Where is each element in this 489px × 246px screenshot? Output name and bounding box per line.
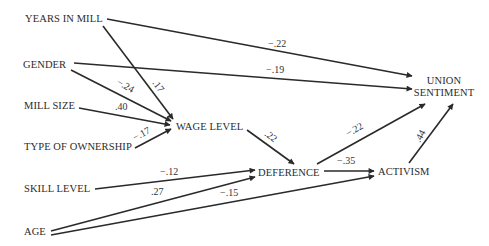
edge-deference-to-union [317, 104, 425, 164]
coef-age-activism: −.15 [220, 187, 238, 198]
node-skill-level: SKILL LEVEL [24, 183, 90, 195]
coef-age-deference: .27 [151, 186, 164, 197]
coef-years-union: −.22 [268, 38, 286, 49]
coef-millsize-wage: .40 [115, 101, 128, 112]
node-years-in-mill: YEARS IN MILL [25, 13, 103, 25]
node-activism: ACTIVISM [378, 166, 430, 178]
coef-deference-activism: −.35 [337, 155, 355, 166]
edge-years-to-union [107, 19, 412, 76]
node-wage-level: WAGE LEVEL [176, 121, 243, 133]
node-union-sentiment-line2: SENTIMENT [412, 87, 476, 99]
node-union-sentiment: UNION SENTIMENT [412, 75, 476, 99]
coef-deference-union: −.22 [344, 120, 365, 139]
coef-skill-deference: −.12 [160, 166, 178, 177]
diagram-edges: −.22 .17 −.19 −.24 .40 −.17 .22 −.12 .27… [0, 0, 489, 246]
edge-age-to-activism [51, 176, 374, 235]
coef-gender-wage: −.24 [115, 76, 136, 95]
coef-gender-union: −.19 [266, 64, 284, 75]
coef-wage-deference: .22 [263, 128, 280, 144]
node-deference: DEFERENCE [258, 167, 320, 179]
node-mill-size: MILL SIZE [24, 100, 75, 112]
node-age: AGE [24, 226, 46, 238]
node-type-of-ownership: TYPE OF OWNERSHIP [24, 141, 132, 153]
node-union-sentiment-line1: UNION [412, 75, 476, 87]
path-diagram: −.22 .17 −.19 −.24 .40 −.17 .22 −.12 .27… [0, 0, 489, 246]
node-gender: GENDER [23, 59, 66, 71]
